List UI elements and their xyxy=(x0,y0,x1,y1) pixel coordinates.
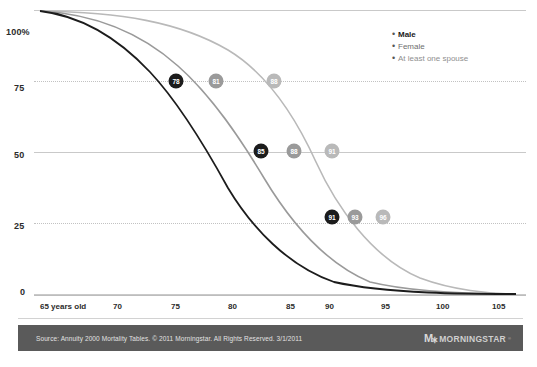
marker-male-85[interactable]: 85 xyxy=(254,144,269,159)
marker-female-81[interactable]: 81 xyxy=(209,74,224,89)
footer-divider xyxy=(18,318,523,319)
marker-female-88[interactable]: 88 xyxy=(287,144,302,159)
marker-male-78[interactable]: 78 xyxy=(169,74,184,89)
registered-trademark-icon: ® xyxy=(508,336,511,341)
xtick-label-100: 100 xyxy=(436,302,449,311)
xtick-label-80: 80 xyxy=(228,302,237,311)
xtick-label-65: 65 years old xyxy=(40,302,86,311)
legend-item-female[interactable]: • Female xyxy=(392,42,522,51)
source-note: Source: Annuity 2000 Mortality Tables. ©… xyxy=(36,335,302,342)
xtick-label-105: 105 xyxy=(492,302,505,311)
legend-label-female: Female xyxy=(398,42,425,51)
gridline-100 xyxy=(34,10,526,11)
ytick-label-75: 75 xyxy=(14,83,24,93)
legend: • Male • Female • At least one spouse xyxy=(392,30,522,66)
ytick-label-25: 25 xyxy=(14,221,24,231)
legend-item-at-least-one-spouse[interactable]: • At least one spouse xyxy=(392,54,522,63)
morningstar-logo: M⁎ MORNINGSTAR ® xyxy=(424,332,511,345)
ytick-label-0: 0 xyxy=(20,287,25,297)
legend-label-male: Male xyxy=(398,30,416,39)
xtick-label-85: 85 xyxy=(286,302,295,311)
legend-label-at-least-one-spouse: At least one spouse xyxy=(398,54,468,63)
marker-female-93[interactable]: 93 xyxy=(348,210,363,225)
morningstar-mark-icon: M⁎ xyxy=(424,332,437,345)
ytick-label-100: 100% xyxy=(6,27,30,37)
marker-male-91[interactable]: 91 xyxy=(325,210,340,225)
gridline-25 xyxy=(34,223,526,224)
marker-spouse-88[interactable]: 88 xyxy=(267,74,282,89)
legend-item-male[interactable]: • Male xyxy=(392,30,522,39)
footer-bar: Source: Annuity 2000 Mortality Tables. ©… xyxy=(18,325,523,351)
xtick-label-70: 70 xyxy=(113,302,122,311)
ytick-label-50: 50 xyxy=(14,150,24,160)
gridline-50 xyxy=(34,152,526,153)
marker-spouse-91[interactable]: 91 xyxy=(325,144,340,159)
xtick-label-95: 95 xyxy=(381,302,390,311)
x-axis-line xyxy=(34,295,526,296)
survival-probability-chart: 100% 75 50 25 0 78 81 88 85 88 91 91 93 … xyxy=(0,0,537,367)
marker-spouse-96[interactable]: 96 xyxy=(376,210,391,225)
morningstar-wordmark: MORNINGSTAR xyxy=(439,333,506,343)
xtick-label-90: 90 xyxy=(325,302,334,311)
xtick-label-75: 75 xyxy=(171,302,180,311)
